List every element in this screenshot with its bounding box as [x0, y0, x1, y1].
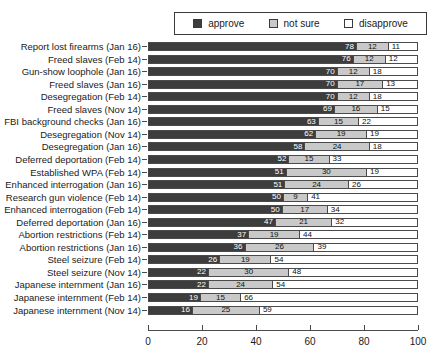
bar-segment-approve: 70 [149, 81, 337, 88]
x-axis-tick [418, 325, 419, 330]
bar-value-not-sure: 21 [299, 218, 308, 226]
y-axis-ticks [0, 41, 148, 318]
bar-row: 50941 [148, 193, 418, 202]
bar-row: 761212 [148, 55, 418, 64]
bar-value-not-sure: 17 [355, 80, 364, 88]
bar-segment-not-sure: 24 [284, 181, 348, 188]
bar-row: 781211 [148, 42, 418, 51]
bar-row: 513019 [148, 168, 418, 177]
bar-row: 261954 [148, 255, 418, 264]
bar-row: 512426 [148, 180, 418, 189]
y-axis-tick [142, 146, 147, 147]
bar-segment-approve: 51 [149, 169, 286, 176]
bar-segment-disapprove: 39 [313, 244, 417, 251]
bar-value-disapprove: 18 [373, 142, 382, 150]
bar-segment-not-sure: 19 [219, 256, 270, 263]
bar-row: 691615 [148, 105, 418, 114]
bar-segment-not-sure: 26 [245, 244, 314, 251]
bar-segment-approve: 36 [149, 244, 245, 251]
bar-segment-approve: 63 [149, 118, 318, 125]
bar-segment-disapprove: 22 [358, 118, 417, 125]
bar-segment-disapprove: 19 [366, 131, 417, 138]
y-axis-tick [142, 234, 147, 235]
bar-segment-approve: 22 [149, 281, 208, 288]
bar-value-disapprove: 11 [392, 42, 400, 50]
y-axis-tick [142, 84, 147, 85]
bar-segment-approve: 50 [149, 206, 282, 213]
bar-segment-not-sure: 12 [337, 68, 369, 75]
bar-value-approve: 50 [272, 193, 281, 201]
bar-value-not-sure: 24 [236, 280, 245, 288]
y-axis-tick [142, 59, 147, 60]
bar-value-not-sure: 24 [312, 180, 321, 188]
y-axis-tick [142, 297, 147, 298]
bar-value-approve: 22 [197, 268, 206, 276]
bar-value-not-sure: 12 [349, 67, 358, 75]
y-axis-tick [142, 159, 147, 160]
bar-segment-disapprove: 48 [288, 269, 417, 276]
bar-segment-approve: 26 [149, 256, 219, 263]
legend-label-disapprove: disapprove [359, 19, 408, 29]
bar-row: 701218 [148, 92, 418, 101]
bar-value-not-sure: 15 [216, 293, 225, 301]
bar-value-disapprove: 34 [331, 205, 340, 213]
x-axis-line [148, 330, 418, 331]
bar-segment-approve: 16 [149, 307, 192, 314]
bar-value-not-sure: 12 [365, 55, 374, 63]
bar-value-disapprove: 22 [362, 117, 371, 125]
bar-row: 501734 [148, 205, 418, 214]
bar-value-disapprove: 13 [386, 80, 395, 88]
bar-value-disapprove: 41 [311, 193, 320, 201]
bar-segment-disapprove: 12 [385, 56, 417, 63]
x-axis-tick [256, 325, 257, 330]
y-axis-tick [142, 197, 147, 198]
bar-value-disapprove: 54 [274, 255, 283, 263]
bar-row: 631522 [148, 117, 418, 126]
bar-value-not-sure: 25 [221, 306, 230, 314]
bar-value-not-sure: 19 [337, 130, 346, 138]
bar-value-approve: 47 [264, 218, 273, 226]
bar-value-disapprove: 59 [263, 306, 272, 314]
x-axis-tick-label: 60 [304, 337, 315, 347]
bar-segment-disapprove: 13 [382, 81, 417, 88]
bar-segment-disapprove: 15 [377, 106, 417, 113]
bar-segment-disapprove: 34 [327, 206, 417, 213]
bar-segment-not-sure: 19 [248, 231, 299, 238]
bar-value-approve: 76 [342, 55, 351, 63]
bar-row: 521533 [148, 155, 418, 164]
bar-value-not-sure: 17 [300, 205, 309, 213]
bar-segment-disapprove: 44 [299, 231, 417, 238]
bar-value-approve: 51 [273, 180, 282, 188]
bar-segment-disapprove: 54 [270, 256, 416, 263]
y-axis-tick [142, 259, 147, 260]
y-axis-tick [142, 172, 147, 173]
x-axis-tick-label: 0 [145, 337, 151, 347]
bar-segment-not-sure: 30 [286, 169, 366, 176]
bar-value-disapprove: 18 [373, 92, 382, 100]
bar-value-not-sure: 30 [322, 168, 331, 176]
bar-segment-not-sure: 9 [283, 194, 307, 201]
bar-value-approve: 58 [294, 142, 303, 150]
bar-segment-not-sure: 12 [356, 43, 388, 50]
legend-item-not-sure: not sure [269, 19, 320, 29]
y-axis-tick [142, 247, 147, 248]
y-axis-tick [142, 109, 147, 110]
bar-row: 222454 [148, 280, 418, 289]
bar-row: 701713 [148, 80, 418, 89]
x-axis-tick [202, 325, 203, 330]
bar-value-approve: 62 [304, 130, 313, 138]
bar-segment-not-sure: 12 [353, 56, 385, 63]
bar-segment-not-sure: 25 [192, 307, 259, 314]
bar-value-disapprove: 19 [370, 168, 379, 176]
bar-segment-approve: 69 [149, 106, 334, 113]
legend-item-approve: approve [193, 19, 244, 29]
bar-value-disapprove: 26 [352, 180, 361, 188]
plot-area: 7812117612127012187017137012186916156315… [148, 41, 418, 318]
bar-value-not-sure: 16 [351, 105, 360, 113]
bar-segment-approve: 22 [149, 269, 208, 276]
x-axis-tick [148, 325, 149, 330]
bar-row: 621919 [148, 130, 418, 139]
bar-value-approve: 37 [237, 230, 246, 238]
y-axis-tick [142, 71, 147, 72]
bar-value-disapprove: 19 [370, 130, 379, 138]
